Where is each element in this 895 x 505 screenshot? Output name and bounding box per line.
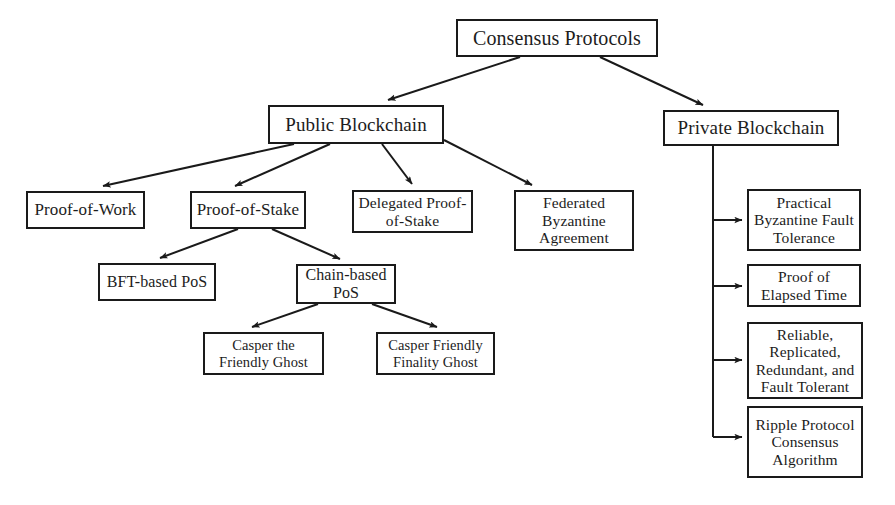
node-label-delegated-proof-of-stake: Delegated Proof- of-Stake bbox=[355, 194, 471, 229]
node-label-casper-the-friendly-ghost: Casper the Friendly Ghost bbox=[215, 337, 312, 369]
node-reliable-replicated-redundant-fault-tolerant[interactable]: Reliable, Replicated, Redundant, and Fau… bbox=[747, 322, 863, 399]
edge-root-to-public-blockchain bbox=[388, 57, 520, 100]
node-bft-based-pos[interactable]: BFT-based PoS bbox=[98, 263, 216, 301]
edge-root-to-private-blockchain bbox=[600, 57, 703, 105]
node-consensus-protocols[interactable]: Consensus Protocols bbox=[456, 19, 658, 57]
node-label-private-blockchain: Private Blockchain bbox=[674, 117, 829, 138]
node-practical-byzantine-fault-tolerance[interactable]: Practical Byzantine Fault Tolerance bbox=[747, 189, 861, 251]
diagram-canvas: Consensus Protocols Public Blockchain Pr… bbox=[0, 0, 895, 505]
node-proof-of-stake[interactable]: Proof-of-Stake bbox=[190, 191, 306, 229]
edge-proof-of-stake-to-chain-based-pos bbox=[272, 229, 340, 259]
node-label-public-blockchain: Public Blockchain bbox=[281, 114, 431, 135]
node-private-blockchain[interactable]: Private Blockchain bbox=[663, 110, 839, 146]
node-label-proof-of-stake: Proof-of-Stake bbox=[193, 200, 303, 219]
node-proof-of-work[interactable]: Proof-of-Work bbox=[26, 191, 145, 229]
node-casper-friendly-finality-ghost[interactable]: Casper Friendly Finality Ghost bbox=[376, 332, 495, 375]
edge-chain-based-pos-to-casper-friendly-finality-ghost bbox=[372, 304, 437, 327]
edge-proof-of-stake-to-bft-based-pos bbox=[160, 229, 238, 258]
node-label-chain-based-pos: Chain-based PoS bbox=[301, 266, 390, 302]
node-federated-byzantine-agreement[interactable]: Federated Byzantine Agreement bbox=[514, 190, 634, 251]
node-casper-the-friendly-ghost[interactable]: Casper the Friendly Ghost bbox=[203, 332, 324, 375]
node-label-casper-friendly-finality-ghost: Casper Friendly Finality Ghost bbox=[384, 337, 487, 369]
node-label-proof-of-work: Proof-of-Work bbox=[31, 200, 141, 219]
node-chain-based-pos[interactable]: Chain-based PoS bbox=[296, 264, 396, 304]
node-delegated-proof-of-stake[interactable]: Delegated Proof- of-Stake bbox=[352, 190, 473, 233]
node-label-federated-byzantine-agreement: Federated Byzantine Agreement bbox=[535, 194, 613, 246]
node-public-blockchain[interactable]: Public Blockchain bbox=[268, 105, 444, 144]
node-label-bft-based-pos: BFT-based PoS bbox=[103, 273, 212, 291]
node-label-reliable-replicated-redundant-fault-tolerant: Reliable, Replicated, Redundant, and Fau… bbox=[752, 326, 859, 395]
edge-public-to-delegated-proof-of-stake bbox=[382, 144, 412, 184]
node-label-proof-of-elapsed-time: Proof of Elapsed Time bbox=[757, 268, 851, 303]
node-label-ripple-protocol-consensus-algorithm: Ripple Protocol Consensus Algorithm bbox=[751, 416, 858, 468]
edge-public-to-federated-byzantine-agreement bbox=[444, 140, 532, 185]
node-label-practical-byzantine-fault-tolerance: Practical Byzantine Fault Tolerance bbox=[750, 194, 858, 246]
edge-public-to-proof-of-work bbox=[103, 144, 294, 186]
node-ripple-protocol-consensus-algorithm[interactable]: Ripple Protocol Consensus Algorithm bbox=[747, 406, 863, 478]
edge-chain-based-pos-to-casper-the-friendly-ghost bbox=[252, 304, 318, 327]
node-label-consensus-protocols: Consensus Protocols bbox=[469, 27, 645, 49]
node-proof-of-elapsed-time[interactable]: Proof of Elapsed Time bbox=[747, 264, 861, 307]
edge-public-to-proof-of-stake bbox=[235, 144, 330, 186]
